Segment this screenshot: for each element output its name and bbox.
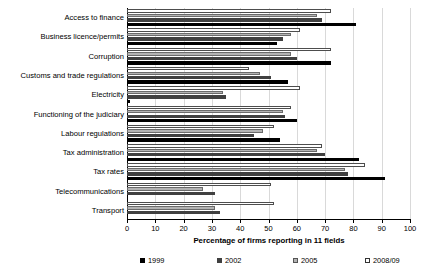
bar-2008-09	[127, 67, 249, 70]
bar-2005	[127, 206, 215, 209]
category-label: Functioning of the judiciary	[0, 110, 128, 119]
bar-group	[127, 201, 410, 220]
bar-2005	[127, 33, 291, 36]
chart-legend: 1999200220052008/09	[127, 254, 417, 266]
legend-item-2002[interactable]: 2002	[217, 256, 241, 265]
bar-2008-09	[127, 86, 300, 89]
category-label: Corruption	[0, 52, 128, 61]
x-tick-label: 60	[285, 224, 309, 233]
bar-group	[127, 85, 410, 104]
x-tick-mark	[325, 220, 326, 223]
bar-2005	[127, 52, 291, 55]
legend-swatch-icon	[293, 258, 298, 263]
bar-2002	[127, 153, 325, 156]
bar-2005	[127, 91, 223, 94]
bar-1999	[127, 80, 288, 83]
bar-group	[127, 162, 410, 181]
x-tick-mark	[269, 220, 270, 223]
bar-2002	[127, 192, 215, 195]
bar-2008-09	[127, 202, 274, 205]
plot-area	[127, 8, 410, 220]
bar-2002	[127, 18, 322, 21]
x-tick-label: 80	[341, 224, 365, 233]
legend-item-2005[interactable]: 2005	[293, 256, 317, 265]
x-tick-mark	[212, 220, 213, 223]
x-tick-mark	[240, 220, 241, 223]
x-tick-label: 90	[370, 224, 394, 233]
legend-label: 2005	[301, 256, 317, 265]
bar-2008-09	[127, 9, 331, 12]
bar-2005	[127, 72, 260, 75]
bar-2005	[127, 187, 203, 190]
x-tick-label: 100	[398, 224, 422, 233]
legend-item-1999[interactable]: 1999	[140, 256, 164, 265]
x-tick-mark	[382, 220, 383, 223]
bar-group	[127, 8, 410, 27]
bar-2005	[127, 129, 263, 132]
bar-2008-09	[127, 28, 300, 31]
bar-group	[127, 27, 410, 46]
category-label: Tax administration	[0, 148, 128, 157]
x-tick-mark	[297, 220, 298, 223]
category-label: Transport	[0, 206, 128, 215]
x-tick-mark	[127, 220, 128, 223]
bar-group	[127, 124, 410, 143]
legend-swatch-icon	[217, 258, 222, 263]
legend-swatch-icon	[365, 258, 370, 263]
x-tick-mark	[155, 220, 156, 223]
bar-2002	[127, 115, 285, 118]
bar-2002	[127, 172, 348, 175]
legend-label: 2008/09	[373, 256, 400, 265]
category-label: Tax rates	[0, 167, 128, 176]
category-label: Labour regulations	[0, 129, 128, 138]
bar-1999	[127, 119, 297, 122]
bar-2002	[127, 95, 226, 98]
x-tick-label: 10	[143, 224, 167, 233]
x-tick-mark	[184, 220, 185, 223]
legend-label: 2002	[225, 256, 241, 265]
bar-2002	[127, 211, 220, 214]
category-label: Access to finance	[0, 13, 128, 22]
bar-1999	[127, 138, 280, 141]
bar-2005	[127, 110, 283, 113]
bar-2002	[127, 37, 283, 40]
x-tick-label: 30	[200, 224, 224, 233]
bar-2008-09	[127, 144, 322, 147]
x-tick-mark	[353, 220, 354, 223]
x-tick-label: 20	[172, 224, 196, 233]
bar-1999	[127, 23, 356, 26]
x-axis-title: Percentage of firms reporting in 11 fiel…	[127, 236, 411, 246]
bar-group	[127, 47, 410, 66]
bar-1999	[127, 100, 130, 103]
bar-chart: Access to financeBusiness licence/permit…	[0, 0, 424, 276]
x-tick-label: 40	[228, 224, 252, 233]
bar-group	[127, 143, 410, 162]
bar-2005	[127, 168, 345, 171]
bar-group	[127, 66, 410, 85]
legend-item-2008-09[interactable]: 2008/09	[365, 256, 400, 265]
bar-1999	[127, 42, 277, 45]
bar-group	[127, 181, 410, 200]
x-tick-mark	[410, 220, 411, 223]
bar-2002	[127, 57, 297, 60]
category-label: Electricity	[0, 90, 128, 99]
legend-label: 1999	[148, 256, 164, 265]
bar-2008-09	[127, 106, 291, 109]
bar-group	[127, 104, 410, 123]
bar-1999	[127, 177, 385, 180]
bar-2005	[127, 149, 317, 152]
legend-swatch-icon	[140, 258, 145, 263]
bar-2002	[127, 134, 254, 137]
category-label: Telecommunications	[0, 187, 128, 196]
bar-2005	[127, 14, 317, 17]
bar-2008-09	[127, 163, 365, 166]
category-axis-labels: Access to financeBusiness licence/permit…	[0, 0, 124, 212]
gridline	[410, 8, 411, 220]
bar-2008-09	[127, 48, 331, 51]
x-tick-label: 50	[257, 224, 281, 233]
category-label: Business licence/permits	[0, 32, 128, 41]
bar-2008-09	[127, 125, 274, 128]
bar-1999	[127, 158, 359, 161]
bar-2002	[127, 76, 271, 79]
bar-2008-09	[127, 183, 271, 186]
